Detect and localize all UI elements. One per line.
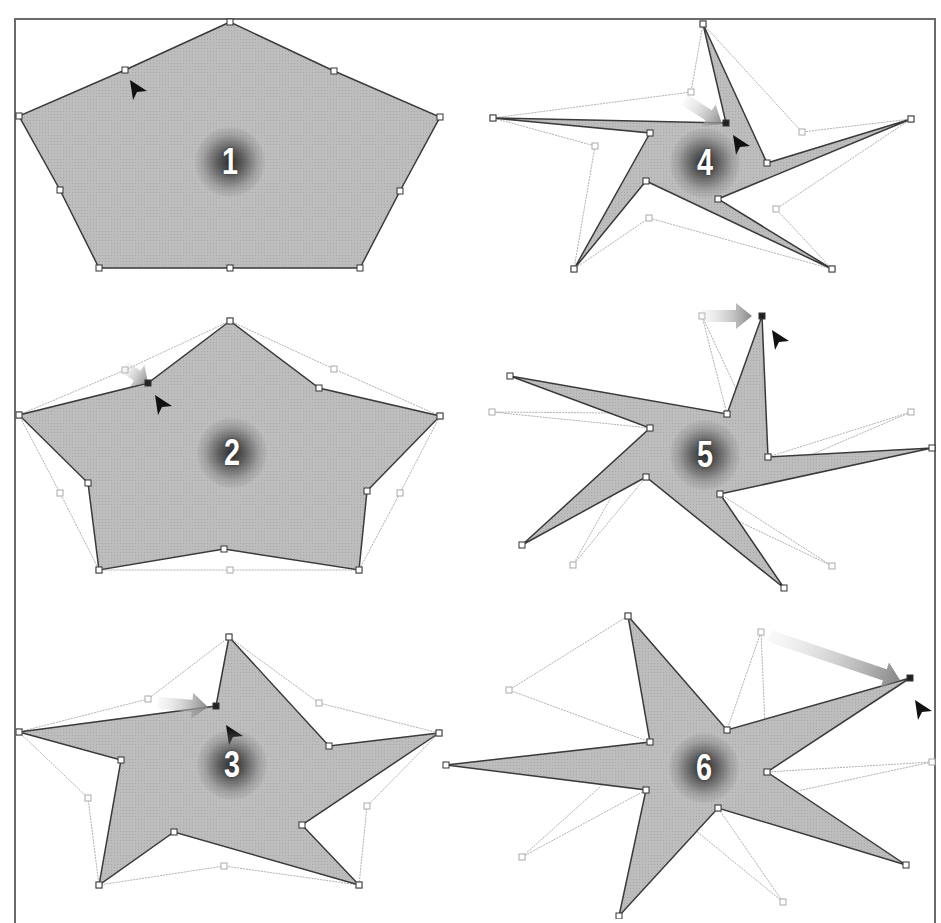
ghost-anchor-handle: [758, 629, 764, 635]
anchor-handle[interactable]: [437, 413, 443, 419]
anchor-handle[interactable]: [643, 178, 649, 184]
anchor-handle[interactable]: [122, 67, 128, 73]
selected-anchor-handle[interactable]: [759, 313, 765, 319]
step-number-badge: 5: [670, 420, 740, 490]
anchor-handle[interactable]: [908, 116, 914, 122]
mouse-pointer-icon: [772, 330, 789, 350]
anchor-handle[interactable]: [571, 266, 577, 272]
anchor-handle[interactable]: [357, 265, 363, 271]
anchor-handle[interactable]: [227, 19, 233, 25]
anchor-handle[interactable]: [643, 474, 649, 480]
step-number-label: 3: [224, 747, 240, 783]
anchor-handle[interactable]: [724, 727, 730, 733]
selected-anchor-handle[interactable]: [145, 380, 151, 386]
ghost-anchor-handle: [145, 696, 151, 702]
step-number-label: 2: [224, 435, 240, 471]
ghost-anchor-handle: [799, 129, 805, 135]
ghost-anchor-handle: [364, 803, 370, 809]
anchor-handle[interactable]: [227, 265, 233, 271]
ghost-anchor-handle: [773, 206, 779, 212]
ghost-anchor-handle: [780, 899, 786, 905]
ghost-anchor-handle: [221, 863, 227, 869]
anchor-handle[interactable]: [643, 787, 649, 793]
anchor-handle[interactable]: [765, 454, 771, 460]
anchor-handle[interactable]: [436, 730, 442, 736]
anchor-handle[interactable]: [118, 757, 124, 763]
anchor-handle[interactable]: [16, 113, 22, 119]
anchor-handle[interactable]: [715, 196, 721, 202]
anchor-handle[interactable]: [700, 21, 706, 27]
step-number-badge: 4: [670, 128, 740, 198]
ghost-anchor-handle: [331, 366, 337, 372]
ghost-anchor-handle: [489, 409, 495, 415]
anchor-handle[interactable]: [647, 130, 653, 136]
selected-anchor-handle[interactable]: [723, 120, 729, 126]
ghost-anchor-handle: [506, 687, 512, 693]
anchor-handle[interactable]: [781, 585, 787, 591]
anchor-handle[interactable]: [490, 115, 496, 121]
step-number-badge: 6: [669, 733, 739, 803]
anchor-handle[interactable]: [331, 68, 337, 74]
anchor-handle[interactable]: [647, 425, 653, 431]
ghost-anchor-handle: [829, 563, 835, 569]
anchor-handle[interactable]: [85, 480, 91, 486]
anchor-handle[interactable]: [226, 634, 232, 640]
anchor-handle[interactable]: [397, 188, 403, 194]
ghost-anchor-handle: [519, 854, 525, 860]
anchor-handle[interactable]: [764, 769, 770, 775]
step-number-label: 6: [696, 750, 712, 786]
anchor-handle[interactable]: [764, 160, 770, 166]
ghost-anchor-handle: [316, 700, 322, 706]
anchor-handle[interactable]: [625, 613, 631, 619]
anchor-handle[interactable]: [221, 546, 227, 552]
ghost-anchor-handle: [908, 409, 914, 415]
anchor-handle[interactable]: [96, 882, 102, 888]
ghost-anchor-handle: [57, 490, 63, 496]
step-number-label: 1: [222, 144, 238, 180]
anchor-handle[interactable]: [715, 805, 721, 811]
ghost-anchor-handle: [570, 562, 576, 568]
step-number-badge: 1: [195, 127, 265, 197]
selected-anchor-handle[interactable]: [213, 703, 219, 709]
anchor-handle[interactable]: [616, 913, 622, 919]
anchor-handle[interactable]: [16, 729, 22, 735]
anchor-handle[interactable]: [507, 373, 513, 379]
step-number-label: 5: [697, 437, 713, 473]
anchor-handle[interactable]: [356, 567, 362, 573]
anchor-handle[interactable]: [299, 822, 305, 828]
anchor-handle[interactable]: [437, 114, 443, 120]
anchor-handle[interactable]: [326, 743, 332, 749]
ghost-anchor-handle: [688, 89, 694, 95]
anchor-handle[interactable]: [443, 762, 449, 768]
anchor-handle[interactable]: [724, 411, 730, 417]
anchor-handle[interactable]: [316, 385, 322, 391]
anchor-handle[interactable]: [16, 412, 22, 418]
ghost-anchor-handle: [85, 795, 91, 801]
anchor-handle[interactable]: [647, 739, 653, 745]
drag-arrow-icon: [766, 624, 904, 693]
step-number-label: 4: [697, 145, 713, 181]
ghost-anchor-handle: [592, 143, 598, 149]
ghost-anchor-handle: [929, 759, 935, 765]
anchor-handle[interactable]: [171, 829, 177, 835]
anchor-handle[interactable]: [96, 265, 102, 271]
anchor-handle[interactable]: [364, 488, 370, 494]
drag-arrow-icon: [702, 303, 752, 329]
anchor-handle[interactable]: [717, 491, 723, 497]
anchor-handle[interactable]: [829, 266, 835, 272]
anchor-handle[interactable]: [929, 445, 935, 451]
anchor-handle[interactable]: [519, 542, 525, 548]
anchor-handle[interactable]: [57, 187, 63, 193]
anchor-handle[interactable]: [356, 882, 362, 888]
ghost-anchor-handle: [646, 215, 652, 221]
anchor-handle[interactable]: [227, 318, 233, 324]
anchor-handle[interactable]: [96, 567, 102, 573]
ghost-anchor-handle: [397, 490, 403, 496]
selected-anchor-handle[interactable]: [907, 675, 913, 681]
step-number-badge: 3: [197, 730, 267, 800]
anchor-handle[interactable]: [903, 862, 909, 868]
ghost-anchor-handle: [227, 567, 233, 573]
step-number-badge: 2: [197, 418, 267, 488]
